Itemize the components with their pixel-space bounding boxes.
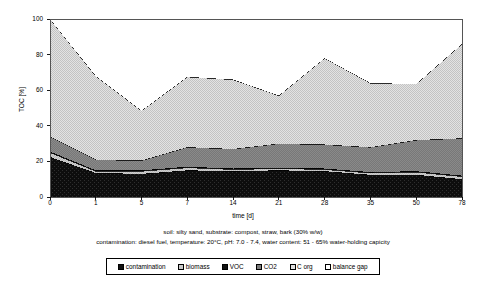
legend-label: balance gap	[333, 263, 368, 270]
legend-item-voc[interactable]: VOC	[222, 263, 243, 270]
caption-line-1: soil: silty sand, substrate: compost, st…	[0, 228, 486, 235]
legend-label: C org	[297, 263, 313, 270]
legend-swatch-icon	[290, 264, 296, 270]
y-tick-label: 80	[17, 51, 43, 58]
x-tick-label: 0	[38, 199, 62, 206]
y-tick-label: 20	[17, 157, 43, 164]
y-tick-label: 60	[17, 86, 43, 93]
area-bands	[50, 19, 462, 197]
x-tick-label: 50	[404, 199, 428, 206]
y-tick-label: 40	[17, 122, 43, 129]
legend-label: CO2	[264, 263, 277, 270]
legend-swatch-icon	[256, 264, 262, 270]
legend-swatch-icon	[118, 264, 124, 270]
legend-item-biomass[interactable]: biomass	[178, 263, 209, 270]
x-tick-label: 1	[84, 199, 108, 206]
legend-item-co2[interactable]: CO2	[256, 263, 277, 270]
legend-label: biomass	[186, 263, 210, 270]
x-tick-label: 35	[358, 199, 382, 206]
chart-legend: contaminationbiomassVOCCO2C orgbalance g…	[106, 258, 380, 275]
legend-swatch-icon	[178, 264, 184, 270]
x-tick-label: 78	[450, 199, 474, 206]
x-tick-label: 5	[130, 199, 154, 206]
legend-label: VOC	[230, 263, 244, 270]
legend-swatch-icon	[325, 264, 331, 270]
legend-item-c-org[interactable]: C org	[290, 263, 313, 270]
x-tick-label: 7	[175, 199, 199, 206]
y-tick-label: 100	[17, 15, 43, 22]
legend-item-contamination[interactable]: contamination	[118, 263, 165, 270]
x-axis-label: time [d]	[0, 212, 486, 219]
x-tick-label: 14	[221, 199, 245, 206]
caption-line-2: contamination: diesel fuel, temperature:…	[0, 238, 486, 245]
legend-item-balance-gap[interactable]: balance gap	[325, 263, 367, 270]
legend-swatch-icon	[222, 264, 228, 270]
legend-label: contamination	[126, 263, 166, 270]
y-axis-label: TOC [%]	[18, 70, 25, 130]
chart-figure: TOC [%] time [d] 020406080100 0157142128…	[0, 0, 486, 295]
x-tick-label: 21	[267, 199, 291, 206]
stacked-area-plot	[0, 0, 486, 295]
x-tick-label: 28	[313, 199, 337, 206]
